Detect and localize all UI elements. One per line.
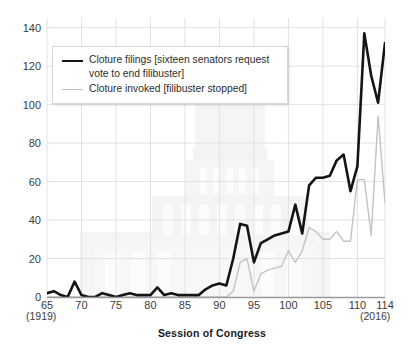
y-axis-tick-labels: 020406080100120140 (23, 22, 41, 303)
chart-legend: Cloture filings [sixteen senators reques… (52, 46, 288, 104)
x-axis-tick-labels: 65707580859095100105110114 (41, 299, 394, 311)
x-tick-label: 85 (179, 299, 191, 311)
end-year-note: (2016) (360, 310, 390, 322)
legend-label-cloture-filings: Cloture filings [sixteen senators reques… (89, 53, 269, 81)
y-tick-label: 60 (29, 176, 41, 188)
x-tick-label: 90 (213, 299, 225, 311)
y-tick-label: 140 (23, 22, 41, 34)
x-tick-label: 80 (144, 299, 156, 311)
y-tick-label: 120 (23, 60, 41, 72)
dark-line-swatch (62, 60, 83, 62)
x-tick-label: 105 (314, 299, 332, 311)
legend-entry-cloture-invoked: Cloture invoked [filibuster stopped] (60, 82, 280, 96)
y-tick-label: 80 (29, 137, 41, 149)
x-tick-label: 70 (75, 299, 87, 311)
x-tick-label: 100 (279, 299, 297, 311)
x-axis-title: Session of Congress (158, 327, 266, 339)
x-tick-label: 95 (248, 299, 260, 311)
start-year-note: (1919) (26, 310, 56, 322)
light-line-swatch (62, 89, 83, 90)
y-tick-label: 100 (23, 99, 41, 111)
x-tick-label: 75 (110, 299, 122, 311)
legend-label-cloture-invoked: Cloture invoked [filibuster stopped] (89, 82, 247, 96)
legend-entry-cloture-filings: Cloture filings [sixteen senators reques… (60, 53, 280, 81)
y-tick-label: 20 (29, 253, 41, 265)
y-tick-label: 40 (29, 214, 41, 226)
chart-container: 020406080100120140 657075808590951001051… (0, 0, 411, 350)
